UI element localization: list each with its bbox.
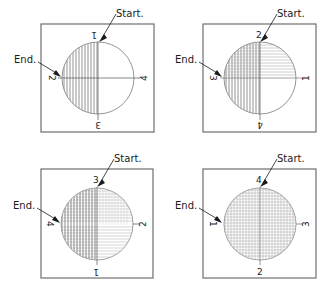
number-right: 3 <box>301 221 311 227</box>
crosshatch <box>221 185 300 263</box>
number-top: 3 <box>93 175 99 185</box>
number-bottom: 3 <box>95 120 101 130</box>
end-label: End. <box>14 54 36 65</box>
end-label: End. <box>175 54 197 65</box>
number-top: 2 <box>256 30 262 40</box>
start-label: Start. <box>114 153 142 164</box>
number-top: 4 <box>256 175 262 185</box>
diagram-panel-2: 2 3 4 1 Start. End. <box>163 0 327 144</box>
start-label: Start. <box>277 153 305 164</box>
number-right: 1 <box>301 75 311 81</box>
number-left: 3 <box>208 75 218 81</box>
number-right: 2 <box>138 221 148 227</box>
number-top: 1 <box>91 30 97 40</box>
horizontal-hatch <box>221 45 300 75</box>
start-label: Start. <box>277 8 305 19</box>
vertical-hatch <box>62 185 95 263</box>
number-right: 4 <box>139 75 149 81</box>
number-bottom: 2 <box>257 267 263 277</box>
number-left: 2 <box>47 75 57 81</box>
start-label: Start. <box>116 8 144 19</box>
end-label: End. <box>175 200 197 211</box>
number-bottom: 4 <box>257 120 263 130</box>
start-arrowhead <box>99 34 107 42</box>
frame <box>203 169 316 278</box>
number-bottom: 1 <box>93 267 99 277</box>
number-left: 4 <box>45 221 55 227</box>
diagram-panel-4: 4 1 2 3 Start. End. <box>163 145 327 288</box>
diagram-panel-3: 3 4 1 2 Start. End. <box>0 145 164 288</box>
end-label: End. <box>13 200 35 211</box>
diagram-panel-1: 1 2 3 4 Start. End. <box>0 0 164 144</box>
number-left: 1 <box>208 221 218 227</box>
